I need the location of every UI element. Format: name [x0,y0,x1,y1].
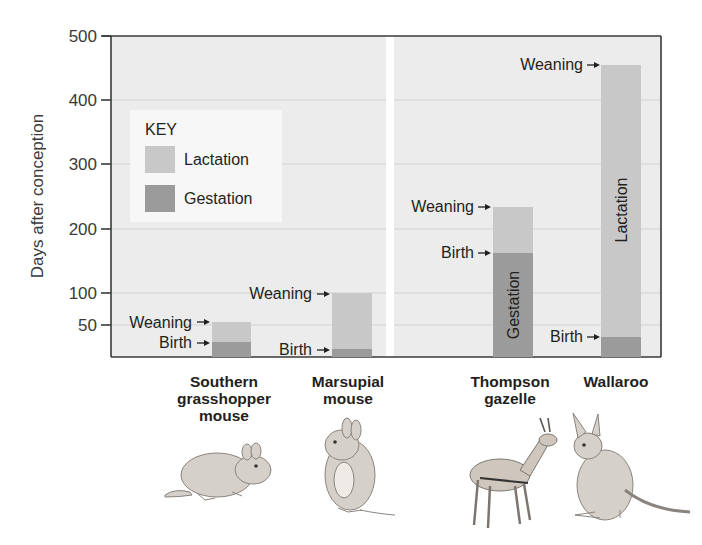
weaning-label: Weaning [129,314,192,331]
y-tick-500: 500 [69,27,97,46]
wallaroo-illustration [573,413,690,520]
bar-thompson-gazelle: Gestation [493,207,533,357]
animal-name-grasshopper-mouse: Southern grasshopper mouse [166,373,282,424]
animal-name-line: Marsupial [296,373,400,390]
y-axis-label: Days after conception [28,114,47,278]
weaning-label: Weaning [411,198,474,215]
bar-lactation [493,207,533,253]
bar-marsupial-mouse [332,293,372,357]
legend-label-gestation: Gestation [184,190,252,207]
y-tick-400: 400 [69,91,97,110]
y-tick-50: 50 [78,316,97,335]
bar-wallaroo: Lactation [601,65,641,357]
bar-gestation [601,337,641,357]
animal-name-line: gazelle [460,390,560,407]
legend-swatch-gestation [145,185,175,212]
y-tick-100: 100 [69,284,97,303]
y-tick-300: 300 [69,155,97,174]
animal-name-line: mouse [296,390,400,407]
marsupial-mouse-illustration [325,418,395,515]
animal-name-line: Wallaroo [568,373,664,390]
y-tick-200: 200 [69,220,97,239]
legend-title: KEY [145,121,177,138]
y-ticks [101,36,111,325]
animal-name-line: Thompson [460,373,560,390]
bar-gestation [332,349,372,357]
animal-name-line: grasshopper [166,390,282,407]
birth-label: Birth [550,328,583,345]
bar-lactation [332,293,372,349]
legend-swatch-lactation [145,146,175,173]
animal-name-wallaroo: Wallaroo [568,373,664,390]
animal-name-thompson-gazelle: Thompson gazelle [460,373,560,407]
lactation-bar-label: Lactation [613,178,630,243]
chart-figure: 500 400 300 200 100 50 Days after concep… [0,0,702,545]
animal-name-line: Southern [166,373,282,390]
grasshopper-mouse-illustration [165,443,271,500]
birth-label: Birth [441,244,474,261]
legend: KEY Lactation Gestation [130,110,282,222]
panel-divider [386,37,394,356]
weaning-label: Weaning [520,56,583,73]
weaning-label: Weaning [249,285,312,302]
bar-lactation [212,322,251,342]
gestation-bar-label: Gestation [505,271,522,339]
birth-label: Birth [159,334,192,351]
birth-label: Birth [279,341,312,358]
thompson-gazelle-illustration [470,418,557,528]
bar-gestation [212,342,251,357]
y-tick-labels: 500 400 300 200 100 50 [69,27,97,335]
animal-name-line: mouse [166,407,282,424]
animal-name-marsupial-mouse: Marsupial mouse [296,373,400,407]
bar-grasshopper-mouse [212,322,251,357]
legend-label-lactation: Lactation [184,151,249,168]
